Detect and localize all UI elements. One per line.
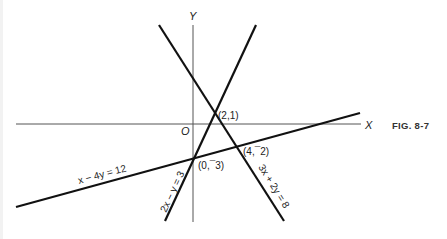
y-axis-label: Y	[189, 10, 197, 22]
point-label-0-neg3: (0,¯3)	[198, 160, 224, 171]
coordinate-diagram: X Y O (2,1) (4,¯2) (0,¯3) x − 4y = 12 2x…	[0, 0, 447, 239]
figure-caption: FIG. 8-7	[392, 120, 429, 131]
point-label-4-neg2: (4,¯2)	[243, 146, 269, 157]
x-axis-label: X	[364, 119, 373, 131]
point-label-2-1: (2,1)	[218, 110, 239, 121]
origin-label: O	[181, 125, 190, 137]
